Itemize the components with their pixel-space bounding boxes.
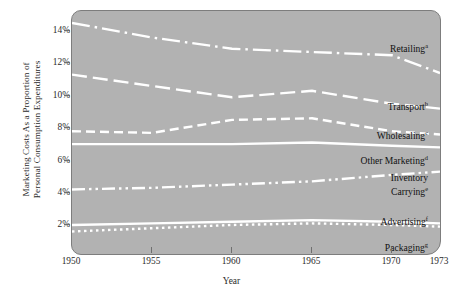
series-label-packaging: Packagingg [300, 239, 428, 253]
x-tick-label-1973: 1973 [416, 256, 462, 266]
y-tick-mark-4 [64, 192, 70, 193]
series-label-inventory-carrying-line-2: Carryinge [300, 183, 428, 197]
y-tick-mark-8 [64, 127, 70, 128]
series-label-advertising: Advertisingf [300, 213, 428, 227]
footnote-marker-g: g [425, 241, 428, 248]
x-tick-mark-1970 [391, 247, 392, 253]
x-tick-label-1950: 1950 [48, 256, 94, 266]
x-tick-mark-1965 [311, 247, 312, 253]
x-tick-label-1960: 1960 [208, 256, 254, 266]
x-tick-mark-1955 [151, 247, 152, 253]
y-tick-mark-12 [64, 62, 70, 63]
x-tick-label-1970: 1970 [368, 256, 414, 266]
series-line-other-marketing [72, 143, 440, 148]
y-tick-mark-2 [64, 224, 70, 225]
footnote-marker-c: c [425, 129, 428, 136]
footnote-marker-b: b [425, 100, 428, 107]
footnote-marker-a: a [425, 42, 428, 49]
y-tick-mark-6 [64, 160, 70, 161]
x-tick-mark-1960 [231, 247, 232, 253]
series-label-retailing: Retailinga [300, 40, 428, 54]
x-tick-label-1955: 1955 [128, 256, 174, 266]
y-tick-mark-10 [64, 95, 70, 96]
series-label-inventory-carrying-line-1: Inventory [300, 172, 428, 183]
series-label-wholesaling: Wholesalingc [296, 127, 428, 141]
footnote-marker-e: e [425, 185, 428, 192]
footnote-marker-d: d [425, 154, 428, 161]
figure-caption [10, 298, 456, 306]
series-label-other-marketing: Other Marketingd [288, 152, 428, 166]
series-label-transport: Transportb [300, 98, 428, 112]
figure: Marketing Costs As a Proportion of Perso… [0, 0, 463, 306]
y-tick-mark-14 [64, 30, 70, 31]
footnote-marker-f: f [426, 215, 428, 222]
series-label-inventory-carrying: Inventory Carryinge [300, 172, 428, 197]
x-axis-title: Year [0, 276, 463, 286]
x-tick-label-1965: 1965 [288, 256, 334, 266]
